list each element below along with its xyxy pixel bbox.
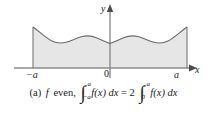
caption-integrand-lhs: f(x) dx bbox=[91, 87, 118, 98]
integral-upper-limit-lhs: a bbox=[87, 81, 91, 88]
x-tick-label-a: a bbox=[174, 70, 179, 80]
figure-caption: (a) f even, ∫a−a f(x) dx = 2 ∫a0 f(x) dx bbox=[0, 88, 207, 99]
integral-lower-limit-lhs: −a bbox=[82, 94, 90, 101]
caption-equals-sign: = bbox=[121, 87, 127, 98]
integral-lower-limit-rhs: 0 bbox=[141, 94, 145, 101]
y-axis-arrowhead bbox=[107, 4, 113, 12]
figure-even-function-integral: y x −a 0 a (a) f even, ∫a−a f(x) dx = 2 … bbox=[0, 0, 207, 119]
origin-label: 0 bbox=[104, 69, 109, 79]
caption-integrand-rhs: f(x) dx bbox=[150, 87, 177, 98]
caption-part-label: (a) bbox=[30, 87, 42, 98]
caption-parity-word: even, bbox=[53, 87, 75, 98]
integral-upper-limit-rhs: a bbox=[146, 81, 150, 88]
y-axis-label: y bbox=[101, 4, 105, 14]
caption-function-name: f bbox=[46, 87, 49, 98]
caption-coefficient: 2 bbox=[130, 87, 135, 98]
x-axis-label: x bbox=[195, 65, 199, 75]
x-tick-label-neg-a: −a bbox=[26, 70, 38, 80]
